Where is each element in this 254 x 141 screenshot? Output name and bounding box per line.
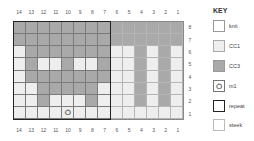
chart-cell xyxy=(147,83,159,95)
column-label: 4 xyxy=(135,126,147,134)
chart-cell xyxy=(147,46,159,58)
chart-cell xyxy=(86,95,98,107)
column-label: 14 xyxy=(13,126,25,134)
column-label: 4 xyxy=(135,8,147,16)
chart-cell xyxy=(14,46,26,58)
chart-cell xyxy=(98,83,110,95)
chart-cell xyxy=(111,83,123,95)
column-label: 10 xyxy=(62,126,74,134)
key-label: knit xyxy=(229,23,238,29)
column-label: 6 xyxy=(111,8,123,16)
row-label: 8 xyxy=(186,21,194,33)
column-label: 2 xyxy=(160,126,172,134)
chart-cell xyxy=(123,34,135,46)
chart-cell xyxy=(171,107,183,119)
row-labels: 87654321 xyxy=(186,21,194,120)
column-label: 5 xyxy=(123,126,135,134)
chart-cell xyxy=(123,83,135,95)
chart-cell xyxy=(14,95,26,107)
column-label: 10 xyxy=(62,8,74,16)
column-labels-top: 1413121110987654321 xyxy=(13,8,184,16)
chart-cell xyxy=(171,34,183,46)
key-label: m1 xyxy=(229,83,237,89)
row-label: 2 xyxy=(186,95,194,107)
chart-cell xyxy=(26,107,38,119)
chart-cell xyxy=(74,46,86,58)
chart-cell xyxy=(50,107,62,119)
column-label: 12 xyxy=(37,8,49,16)
chart-cell xyxy=(14,22,26,34)
chart-cell xyxy=(123,46,135,58)
chart-cell xyxy=(86,34,98,46)
column-label: 11 xyxy=(50,126,62,134)
row-label: 3 xyxy=(186,83,194,95)
chart-cell xyxy=(123,95,135,107)
chart-cell xyxy=(123,107,135,119)
chart-cell xyxy=(14,107,26,119)
chart-cell xyxy=(74,83,86,95)
chart-cell xyxy=(38,58,50,70)
column-label: 14 xyxy=(13,8,25,16)
chart-cell xyxy=(171,22,183,34)
key-item-repeat: repeat xyxy=(213,100,245,112)
knitting-chart-grid: Ö xyxy=(13,21,184,120)
key-title: KEY xyxy=(213,7,227,14)
chart-cell xyxy=(98,58,110,70)
chart-cell xyxy=(14,58,26,70)
column-labels-bottom: 1413121110987654321 xyxy=(13,126,184,134)
chart-cell xyxy=(38,95,50,107)
chart-cell xyxy=(86,83,98,95)
chart-cell xyxy=(111,107,123,119)
column-label: 7 xyxy=(99,8,111,16)
chart-cell xyxy=(135,95,147,107)
column-label: 13 xyxy=(25,8,37,16)
chart-cell xyxy=(38,83,50,95)
chart-cell xyxy=(86,71,98,83)
chart-cell xyxy=(111,58,123,70)
column-label: 11 xyxy=(50,8,62,16)
repeat-swatch xyxy=(213,100,225,112)
chart-cell xyxy=(74,58,86,70)
key-item-m1: Ö m1 xyxy=(213,80,237,92)
column-label: 9 xyxy=(74,8,86,16)
chart-cell xyxy=(38,34,50,46)
column-label: 13 xyxy=(25,126,37,134)
column-label: 12 xyxy=(37,126,49,134)
chart-cell xyxy=(62,34,74,46)
chart-cell xyxy=(62,95,74,107)
chart-cell xyxy=(159,83,171,95)
chart-cell xyxy=(26,71,38,83)
chart-cell xyxy=(26,22,38,34)
m1-icon: Ö xyxy=(62,107,74,119)
chart-cell xyxy=(98,34,110,46)
chart-cell xyxy=(171,46,183,58)
chart-cell xyxy=(62,46,74,58)
chart-cell xyxy=(14,71,26,83)
chart-cell xyxy=(147,95,159,107)
key-label: repeat xyxy=(229,103,245,109)
chart-cell xyxy=(74,22,86,34)
column-label: 2 xyxy=(160,8,172,16)
column-label: 5 xyxy=(123,8,135,16)
chart-cell xyxy=(111,34,123,46)
chart-cell xyxy=(147,34,159,46)
chart-cell xyxy=(14,83,26,95)
chart-cell xyxy=(86,22,98,34)
chart-cell xyxy=(159,107,171,119)
row-label: 1 xyxy=(186,108,194,120)
chart-cell xyxy=(135,107,147,119)
chart-cell xyxy=(14,34,26,46)
column-label: 7 xyxy=(99,126,111,134)
chart-cell xyxy=(98,107,110,119)
column-label: 8 xyxy=(86,126,98,134)
key-label: steek xyxy=(229,122,242,128)
chart-cell xyxy=(111,95,123,107)
column-label: 9 xyxy=(74,126,86,134)
chart-cell xyxy=(98,95,110,107)
steek-swatch xyxy=(213,119,225,131)
chart-cell xyxy=(26,58,38,70)
chart-cell xyxy=(26,95,38,107)
key-label: CC3 xyxy=(229,63,240,69)
chart-cell xyxy=(74,71,86,83)
chart-cell xyxy=(135,83,147,95)
